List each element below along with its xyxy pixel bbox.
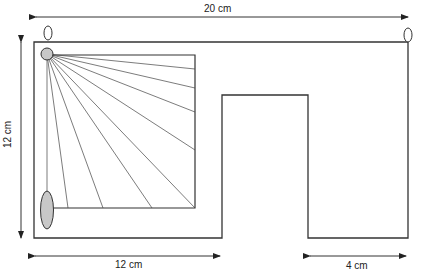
fan-rays xyxy=(47,54,195,208)
top-dimension-label: 20 cm xyxy=(204,3,231,14)
left-dimension-label: 12 cm xyxy=(2,121,13,148)
detector xyxy=(41,191,54,229)
bottom-left-dimension-label: 12 cm xyxy=(115,259,142,270)
diagram-canvas xyxy=(0,0,422,279)
bottom-right-dimension-label: 4 cm xyxy=(346,260,368,271)
hook-left xyxy=(44,26,52,40)
hook-right xyxy=(404,28,412,42)
light-source xyxy=(41,48,53,60)
